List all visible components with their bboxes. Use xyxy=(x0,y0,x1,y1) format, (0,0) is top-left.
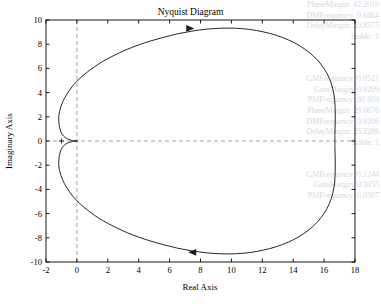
nyquist-figure: PhaseMargin: 42.2016DMFrequency: 0.6464D… xyxy=(0,0,381,304)
x-tick-label: 0 xyxy=(75,265,79,275)
y-tick-label: -10 xyxy=(31,257,42,267)
nyquist-plot: Nyquist Diagram -2024681012141618 108642… xyxy=(0,0,381,304)
critical-point-marker xyxy=(59,138,64,143)
x-tick-label: 10 xyxy=(227,265,236,275)
y-tick-label: 8 xyxy=(38,39,42,49)
x-tick-label: 16 xyxy=(320,265,329,275)
y-tick-label: -2 xyxy=(35,160,42,170)
x-axis-label: Real Axis xyxy=(182,282,218,292)
x-axis-ticks: -2024681012141618 xyxy=(42,20,359,275)
x-tick-label: 8 xyxy=(198,265,202,275)
y-tick-label: -4 xyxy=(35,184,43,194)
y-tick-label: -6 xyxy=(35,209,43,219)
y-tick-label: 0 xyxy=(38,136,42,146)
y-tick-label: 4 xyxy=(38,88,43,98)
lower-arrow xyxy=(188,249,196,256)
y-tick-label: 2 xyxy=(38,112,42,122)
x-tick-label: 12 xyxy=(258,265,267,275)
x-tick-label: 4 xyxy=(137,265,142,275)
y-tick-label: -8 xyxy=(35,233,42,243)
x-tick-label: 2 xyxy=(106,265,110,275)
page-title: Nyquist Diagram xyxy=(158,7,224,17)
direction-arrows xyxy=(186,25,196,256)
y-axis-label: Imaginary Axis xyxy=(4,113,14,169)
x-tick-label: 6 xyxy=(167,265,172,275)
y-tick-label: 6 xyxy=(38,63,43,73)
reference-lines xyxy=(46,20,355,262)
plot-root: Nyquist Diagram -2024681012141618 108642… xyxy=(0,0,381,304)
x-tick-label: 18 xyxy=(351,265,360,275)
x-tick-label: 14 xyxy=(289,265,298,275)
y-tick-label: 10 xyxy=(33,15,42,25)
x-tick-label: -2 xyxy=(42,265,49,275)
